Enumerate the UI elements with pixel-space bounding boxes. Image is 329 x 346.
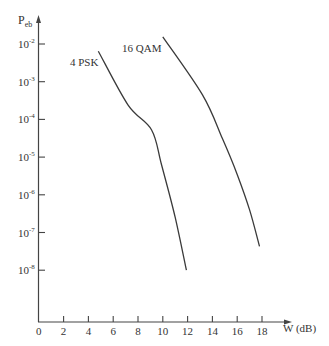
x-tick-label: 2 [61,325,67,337]
y-tick-label: 10-6 [18,188,35,201]
y-tick-label: 10-3 [18,75,35,88]
x-tick-label: 16 [232,325,244,337]
y-axis-label: Peb [18,13,32,29]
x-tick-label: 4 [86,325,92,337]
x-tick-label: 6 [110,325,116,337]
y-tick-label: 10-8 [18,263,35,276]
x-tick-label: 14 [207,325,219,337]
x-tick-label: 10 [157,325,169,337]
x-tick-label: 0 [36,325,42,337]
curve-16qam [163,37,260,247]
curve-4psk [98,51,186,270]
ber-chart: 024681012141618 10-210-310-410-510-610-7… [0,0,329,346]
y-tick-label: 10-7 [18,226,35,239]
series-label-4psk: 4 PSK [70,56,98,68]
y-tick-label: 10-2 [18,37,35,50]
y-tick-label: 10-4 [18,112,35,125]
x-tick-label: 18 [257,325,269,337]
x-axis-label: W (dB) [283,322,316,335]
x-tick-label: 8 [135,325,141,337]
x-ticks: 024681012141618 [36,316,268,337]
y-axis-arrow-icon [36,15,41,23]
y-tick-label: 10-5 [18,150,35,163]
series-label-16qam: 16 QAM [122,42,162,54]
y-ticks: 10-210-310-410-510-610-710-8 [18,37,45,276]
x-tick-label: 12 [182,325,193,337]
curves [98,37,259,270]
y-axis-label-sub: eb [25,20,33,29]
